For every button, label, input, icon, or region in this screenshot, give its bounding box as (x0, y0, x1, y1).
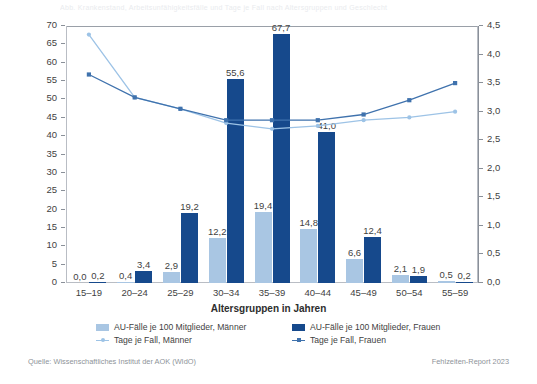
line-female-marker (270, 118, 274, 122)
legend-item[interactable]: AU-Fälle je 100 Mitglieder, Frauen (292, 322, 440, 332)
tick-label: 4,0 (487, 48, 500, 59)
x-category-label: 15–19 (66, 287, 112, 298)
line-male-marker (362, 118, 366, 122)
x-axis-categories: 15–1920–2425–2930–3435–3940–4445–4950–54… (66, 287, 478, 301)
tick-mark (61, 135, 65, 136)
x-category-label: 20–24 (112, 287, 158, 298)
tick-mark (479, 25, 483, 26)
tick-mark (61, 98, 65, 99)
line-female-marker (87, 72, 91, 76)
legend-label: AU-Fälle je 100 Mitglieder, Männer (114, 322, 246, 332)
tick-mark (61, 190, 65, 191)
legend-label: Tage je Fall, Frauen (310, 335, 386, 345)
legend-item[interactable]: Tage je Fall, Männer (96, 335, 192, 345)
line-female-marker (224, 118, 228, 122)
tick-mark (61, 117, 65, 118)
tick-label: 1,5 (487, 190, 500, 201)
tick-mark (479, 54, 483, 55)
tick-label: 0,0 (487, 276, 500, 287)
tick-mark (61, 43, 65, 44)
x-category-label: 45–49 (341, 287, 387, 298)
legend-label: Tage je Fall, Männer (114, 335, 192, 345)
tick-label: 0,5 (487, 247, 500, 258)
line-male-marker (453, 110, 457, 114)
x-category-label: 40–44 (295, 287, 341, 298)
tick-label: 45 (46, 111, 57, 122)
tick-mark (479, 196, 483, 197)
legend-item[interactable]: AU-Fälle je 100 Mitglieder, Männer (96, 322, 246, 332)
legend-swatch-line-female-icon (292, 337, 305, 344)
x-category-label: 30–34 (203, 287, 249, 298)
tick-mark (61, 25, 65, 26)
tick-label: 1,0 (487, 219, 500, 230)
tick-mark (479, 139, 483, 140)
report-note: Fehlzeiten-Report 2023 (432, 357, 509, 366)
line-female-marker (407, 98, 411, 102)
tick-label: 20 (46, 203, 57, 214)
tick-label: 2,5 (487, 133, 500, 144)
legend-swatch-bar-female-icon (292, 324, 305, 331)
line-female-marker (453, 81, 457, 85)
line-male-marker (87, 33, 91, 37)
legend-swatch-bar-male-icon (96, 324, 109, 331)
tick-label: 15 (46, 221, 57, 232)
cut-off-caption: Abb. Krankenstand, Arbeitsunfähigkeitsfä… (60, 4, 500, 13)
tick-mark (479, 168, 483, 169)
source-note: Quelle: Wissenschaftliches Institut der … (28, 357, 196, 366)
line-female-marker (316, 118, 320, 122)
chart-legend: AU-Fälle je 100 Mitglieder, MännerAU-Fäl… (96, 322, 466, 348)
tick-label: 60 (46, 56, 57, 67)
tick-mark (479, 282, 483, 283)
tick-mark (61, 80, 65, 81)
x-category-label: 55–59 (432, 287, 478, 298)
line-female-marker (362, 112, 366, 116)
chart-figure: Abb. Krankenstand, Arbeitsunfähigkeitsfä… (0, 0, 537, 384)
tick-mark (61, 282, 65, 283)
line-male-marker (270, 127, 274, 131)
tick-mark (61, 245, 65, 246)
tick-label: 5 (52, 258, 57, 269)
tick-mark (61, 62, 65, 63)
tick-mark (479, 111, 483, 112)
tick-mark (61, 227, 65, 228)
tick-label: 35 (46, 148, 57, 159)
tick-mark (61, 154, 65, 155)
tick-label: 0 (52, 276, 57, 287)
tick-label: 30 (46, 166, 57, 177)
line-female-marker (133, 95, 137, 99)
tick-mark (61, 209, 65, 210)
tick-mark (479, 225, 483, 226)
tick-label: 10 (46, 239, 57, 250)
x-category-label: 50–54 (386, 287, 432, 298)
legend-swatch-line-male-icon (96, 337, 109, 344)
tick-label: 65 (46, 37, 57, 48)
tick-label: 55 (46, 74, 57, 85)
tick-mark (61, 172, 65, 173)
x-axis-title: Altersgruppen in Jahren (0, 303, 537, 314)
line-female-marker (178, 107, 182, 111)
tick-label: 25 (46, 184, 57, 195)
x-category-label: 25–29 (158, 287, 204, 298)
tick-label: 2,0 (487, 162, 500, 173)
line-female (89, 75, 455, 121)
tick-label: 3,0 (487, 105, 500, 116)
tick-label: 50 (46, 92, 57, 103)
tick-label: 70 (46, 19, 57, 30)
line-male-marker (316, 124, 320, 128)
tick-mark (61, 264, 65, 265)
tick-label: 3,5 (487, 76, 500, 87)
legend-item[interactable]: Tage je Fall, Frauen (292, 335, 386, 345)
tick-label: 4,5 (487, 19, 500, 30)
tick-mark (479, 253, 483, 254)
right-axis-spine (478, 26, 479, 283)
tick-mark (479, 82, 483, 83)
line-series-layer (66, 26, 478, 283)
x-category-label: 35–39 (249, 287, 295, 298)
legend-label: AU-Fälle je 100 Mitglieder, Frauen (310, 322, 440, 332)
line-male-marker (407, 115, 411, 119)
tick-label: 40 (46, 129, 57, 140)
line-male (89, 35, 455, 129)
